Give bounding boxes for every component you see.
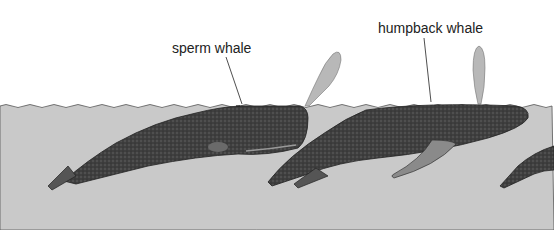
sperm-whale-spout bbox=[305, 52, 341, 106]
sperm-whale-label: sperm whale bbox=[172, 40, 251, 56]
humpback-whale-pointer bbox=[424, 38, 431, 102]
sperm-whale-pointer bbox=[226, 57, 242, 104]
whale-illustration: sperm whale humpback whale bbox=[0, 0, 554, 230]
humpback-whale-spout bbox=[473, 46, 485, 104]
humpback-whale-label: humpback whale bbox=[378, 20, 483, 36]
